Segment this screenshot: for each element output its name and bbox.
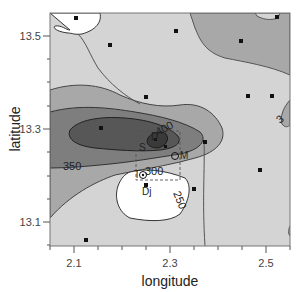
x-tick-label: 2.1 bbox=[66, 257, 81, 269]
site-label-t: T bbox=[134, 169, 140, 180]
x-tick-label: 2.3 bbox=[162, 257, 177, 269]
site-t-dot bbox=[142, 174, 144, 176]
site-label-dj: Dj bbox=[142, 186, 151, 197]
site-label-m: M bbox=[180, 150, 188, 161]
contour-label-300: 300 bbox=[145, 165, 163, 177]
site-label-d: D bbox=[151, 131, 158, 142]
y-axis-ticks bbox=[43, 36, 50, 245]
plot-area: 400 350 300 250 3 D S M T Dj bbox=[50, 13, 290, 246]
x-axis-ticks bbox=[50, 246, 290, 253]
site-label-s: S bbox=[139, 142, 146, 153]
contour-label-350: 350 bbox=[63, 160, 81, 172]
x-tick-label: 2.5 bbox=[258, 257, 273, 269]
y-tick-label: 13.1 bbox=[20, 216, 41, 228]
x-axis-title: longitude bbox=[142, 273, 199, 289]
y-axis-title: latitude bbox=[7, 106, 23, 151]
y-tick-label: 13.5 bbox=[20, 30, 41, 42]
contour-chart: 400 350 300 250 3 D S M T Dj 2.1 2.3 2.5 bbox=[0, 0, 302, 292]
